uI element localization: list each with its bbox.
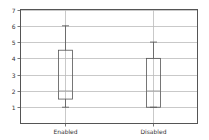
x-tick-label: Disabled bbox=[140, 128, 166, 135]
y-tick-label: 1 bbox=[12, 104, 16, 111]
x-tick-label: Enabled bbox=[53, 128, 77, 135]
y-tick-label: 7 bbox=[12, 7, 16, 14]
grid-lines bbox=[21, 10, 198, 124]
y-tick-label: 2 bbox=[12, 88, 16, 95]
y-tick-label: 4 bbox=[12, 55, 16, 62]
y-tick-label: 3 bbox=[12, 72, 16, 79]
box-plot-chart: 1234567 EnabledDisabled bbox=[0, 0, 209, 140]
boxes bbox=[59, 26, 161, 107]
y-tick-label: 5 bbox=[12, 39, 16, 46]
y-axis-ticks: 1234567 bbox=[12, 7, 21, 111]
y-tick-label: 6 bbox=[12, 23, 16, 30]
x-axis-ticks: EnabledDisabled bbox=[53, 124, 166, 135]
